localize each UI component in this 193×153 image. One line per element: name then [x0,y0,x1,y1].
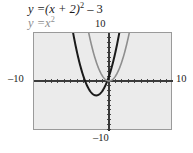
axis-label-x-min: –10 [8,74,24,85]
axis-label-y-max: 10 [95,19,106,30]
parabola-curves-group [72,33,130,95]
equation-label-parent: y =x2 [28,17,55,30]
plot-area [33,32,172,130]
equation-parent-exponent: 2 [51,15,55,24]
equation-parent-lhs: y = [28,16,45,30]
equation-main-lhs: y = [28,2,45,16]
equation-label-transformed: y =(x + 2)2 – 3 [28,3,103,16]
axis-group [34,33,173,131]
coordinate-plane-svg [34,33,173,131]
axis-label-y-min: –10 [93,133,109,144]
graph-figure: y =(x + 2)2 – 3 y =x2 10 –10 10 –10 [0,0,193,153]
equation-main-tail: – 3 [84,2,103,16]
axis-label-x-max: 10 [176,74,187,85]
